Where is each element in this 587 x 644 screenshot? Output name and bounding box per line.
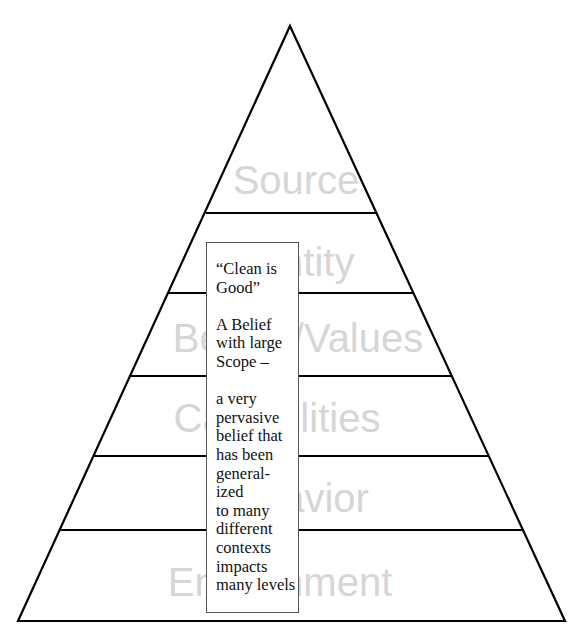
callout-title: “Clean is Good”: [216, 260, 298, 297]
level-label-source: Source: [233, 160, 360, 200]
callout-body: a very pervasive belief that has been ge…: [216, 390, 298, 595]
callout-subtitle: A Belief with large Scope –: [216, 316, 298, 372]
callout-box: “Clean is Good” A Belief with large Scop…: [206, 242, 299, 613]
